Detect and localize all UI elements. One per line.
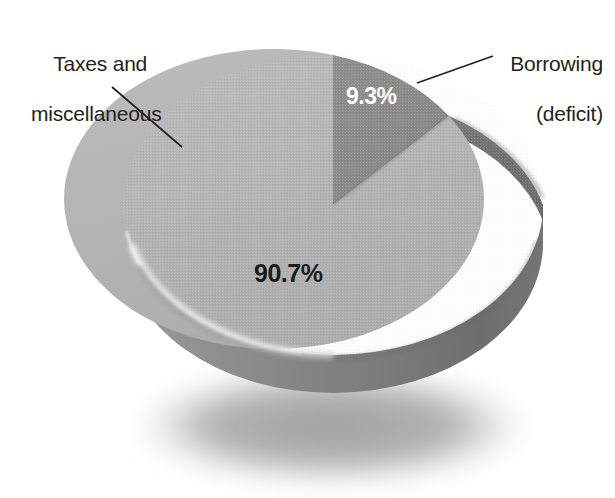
slice-label-borrowing-line1: Borrowing [510,52,603,75]
slice-value-borrowing: 9.3% [346,83,396,110]
slice-label-taxes-line2: miscellaneous [31,101,161,126]
slice-label-taxes: Taxes and miscellaneous [31,26,161,176]
leader-line-borrowing [417,56,493,83]
slice-label-taxes-line1: Taxes and [53,52,147,75]
pie-chart-figure: Taxes and miscellaneous Borrowing (defic… [0,0,615,498]
slice-value-taxes: 90.7% [254,259,322,288]
slice-label-borrowing: Borrowing (deficit) [488,26,603,176]
slice-label-borrowing-line2: (deficit) [488,101,603,126]
